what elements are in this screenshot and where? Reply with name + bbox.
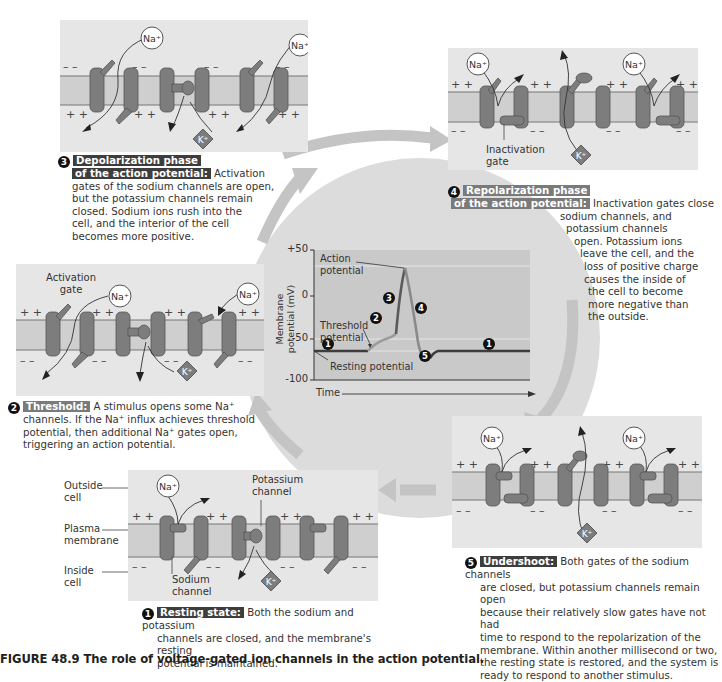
svg-text:– –: – –	[20, 354, 35, 367]
svg-text:K⁺: K⁺	[182, 367, 193, 377]
y-tick-minus100: -100	[272, 373, 308, 384]
svg-text:+ +: + +	[92, 306, 114, 319]
annotation-resting-potential: Resting potential	[330, 361, 430, 373]
inactivation-gate	[500, 116, 524, 125]
sodium-ion-icon: Na⁺	[289, 34, 308, 56]
label-inactivation-gate: Inactivation gate	[486, 144, 545, 168]
svg-text:+ +: + +	[530, 78, 552, 91]
svg-text:– –: – –	[456, 504, 471, 517]
svg-text:+ +: + +	[206, 510, 228, 523]
potassium-ion-icon: K⁺	[177, 361, 197, 381]
svg-text:K⁺: K⁺	[266, 577, 277, 587]
sodium-ion-icon: Na⁺	[623, 53, 645, 75]
svg-text:4: 4	[418, 303, 424, 313]
caption-depolarization: 3Depolarization phase of the action pote…	[58, 155, 308, 244]
svg-text:+ +: + +	[280, 510, 302, 523]
svg-text:Na⁺: Na⁺	[143, 33, 161, 44]
step-number-1: 1	[142, 608, 154, 620]
x-axis-label: Time	[316, 387, 340, 399]
step-number-5: 5	[465, 557, 477, 569]
svg-text:– –: – –	[164, 354, 179, 367]
figure-title: FIGURE 48.9 The role of voltage-gated io…	[0, 652, 484, 666]
sodium-channel-left-half	[90, 68, 104, 112]
label-outside-cell: Outside cell	[64, 480, 103, 504]
membrane-diagram-undershoot: + ++ ++ ++ + – –– –– –– –	[452, 416, 702, 548]
y-tick-plus50: +50	[272, 243, 308, 254]
svg-text:+ +: + +	[238, 306, 260, 319]
svg-text:– –: – –	[132, 560, 147, 573]
sodium-ion-icon: Na⁺	[623, 427, 645, 449]
svg-text:K⁺: K⁺	[576, 151, 587, 161]
potassium-ion-icon: K⁺	[193, 129, 213, 149]
svg-text:1: 1	[486, 339, 492, 349]
caption-undershoot: 5Undershoot: Both gates of the sodium ch…	[465, 556, 722, 682]
svg-text:+ +: + +	[20, 306, 42, 319]
svg-text:Na⁺: Na⁺	[483, 433, 501, 444]
sodium-ion-icon: Na⁺	[481, 427, 503, 449]
label-sodium-channel: Sodium channel	[172, 574, 212, 598]
svg-text:– –: – –	[352, 560, 367, 573]
svg-text:– –: – –	[92, 354, 107, 367]
label-activation-gate: Activation gate	[46, 272, 96, 296]
caption-threshold: 2Threshold: A stimulus opens some Na⁺ ch…	[8, 401, 270, 452]
svg-text:Na⁺: Na⁺	[291, 40, 308, 51]
sodium-ion-icon: Na⁺	[467, 53, 489, 75]
svg-text:+ +: + +	[451, 78, 473, 91]
panel-resting-state: + ++ ++ ++ + – –– –– –– –	[128, 470, 378, 601]
svg-text:+ +: + +	[352, 510, 374, 523]
potassium-channel-right	[195, 68, 209, 112]
svg-text:Na⁺: Na⁺	[159, 481, 177, 492]
membrane-potential-chart: 1 2 3 4 5 1 +50 0 -50 -100 Membrane pote…	[270, 238, 540, 403]
annotation-threshold-potential: Threshold potential	[320, 320, 380, 343]
y-axis-label: Membrane potential (mV)	[274, 274, 296, 364]
panel-repolarization: + ++ ++ ++ + – –– –– –– –	[448, 48, 698, 170]
svg-text:– –: – –	[530, 124, 545, 137]
svg-text:K⁺: K⁺	[198, 135, 209, 145]
potassium-ion-icon: K⁺	[577, 523, 597, 543]
svg-text:Na⁺: Na⁺	[239, 289, 257, 300]
svg-text:3: 3	[386, 293, 392, 303]
label-potassium-channel: Potassium channel	[252, 474, 303, 498]
panel-undershoot: + ++ ++ ++ + – –– –– –– –	[452, 416, 702, 548]
sodium-channel-right-half	[124, 68, 138, 112]
panel-threshold: + ++ ++ ++ + – –– –– –– –	[16, 264, 264, 396]
svg-text:– –: – –	[530, 504, 545, 517]
svg-text:– –: – –	[451, 124, 466, 137]
svg-text:Na⁺: Na⁺	[111, 291, 129, 302]
svg-text:+ +: + +	[208, 108, 230, 121]
svg-text:– –: – –	[238, 354, 253, 367]
svg-text:+ +: + +	[164, 306, 186, 319]
step-number-4: 4	[448, 186, 460, 198]
svg-text:– –: – –	[206, 560, 221, 573]
svg-text:+ +: + +	[66, 108, 88, 121]
sodium-ion-icon: Na⁺	[237, 283, 259, 305]
svg-text:+ +: + +	[678, 458, 700, 471]
svg-text:+ +: + +	[456, 458, 478, 471]
svg-text:– –: – –	[63, 60, 78, 73]
potassium-ion-icon: K⁺	[571, 145, 591, 165]
step-number-3: 3	[58, 156, 70, 168]
annotation-action-potential: Action potential	[320, 253, 380, 276]
membrane-diagram-depolarization: – –– –– –– – + ++ ++ ++ +	[60, 20, 308, 152]
svg-text:Na⁺: Na⁺	[469, 59, 487, 70]
side-label-leaders	[100, 480, 130, 580]
sodium-ion-icon: Na⁺	[109, 285, 131, 307]
svg-text:Na⁺: Na⁺	[625, 59, 643, 70]
svg-text:K⁺: K⁺	[582, 529, 593, 539]
svg-text:– –: – –	[280, 560, 295, 573]
panel-depolarization: – –– –– –– – + ++ ++ ++ +	[60, 20, 308, 152]
chart-plot: 1 2 3 4 5 1	[270, 238, 540, 403]
svg-text:+ +: + +	[132, 510, 154, 523]
sodium-channel	[160, 516, 174, 560]
svg-text:– –: – –	[678, 504, 693, 517]
sodium-ion-icon: Na⁺	[141, 27, 163, 49]
step-number-2: 2	[8, 402, 20, 414]
svg-text:Na⁺: Na⁺	[625, 433, 643, 444]
potassium-ion-icon: K⁺	[261, 571, 281, 591]
sodium-ion-icon: Na⁺	[157, 475, 179, 497]
svg-text:5: 5	[422, 351, 428, 361]
label-inside-cell: Inside cell	[64, 565, 94, 589]
